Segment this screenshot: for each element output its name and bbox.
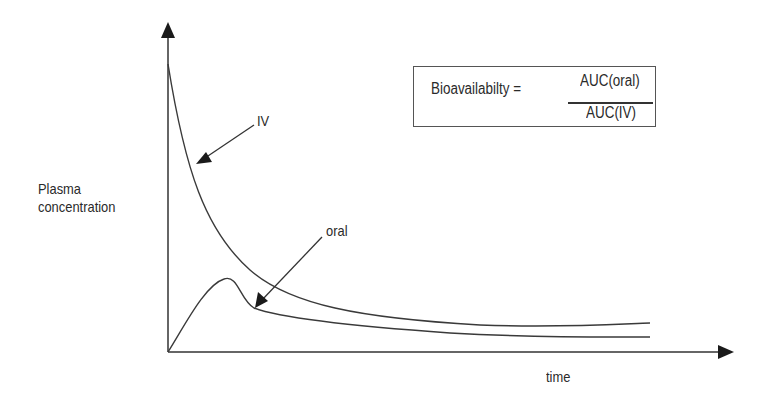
x-axis-label: time [546, 368, 570, 385]
oral-label: oral [326, 222, 348, 239]
x-axis-arrow-icon [718, 345, 734, 359]
bioavailability-formula-box: Bioavailabilty = AUC(oral) AUC(IV) [413, 66, 656, 127]
y-axis-label-line2: concentration [38, 198, 115, 215]
x-axis [168, 345, 734, 359]
formula-lhs: Bioavailabilty = [431, 80, 521, 98]
y-axis-label-line1: Plasma [38, 180, 81, 197]
y-axis-arrow-icon [161, 22, 175, 38]
oral-curve [168, 278, 650, 352]
iv-label: IV [257, 112, 269, 129]
iv-pointer-arrow [202, 125, 254, 160]
formula-numerator: AUC(oral) [580, 72, 640, 90]
oral-pointer-arrow [262, 237, 322, 300]
iv-arrowhead-icon [196, 152, 212, 164]
formula-denominator: AUC(IV) [586, 104, 636, 122]
oral-arrowhead-icon [255, 292, 268, 308]
y-axis [161, 22, 175, 352]
